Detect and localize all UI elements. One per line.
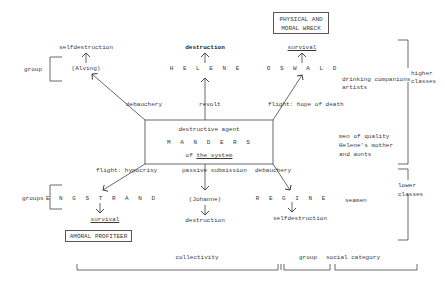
manders-label: M A N D E R S	[167, 139, 253, 146]
alving-outcome: selfdestruction	[59, 44, 113, 51]
lower-classes-line1: lower	[398, 182, 416, 189]
drinking-companions-line1: drinking companions	[342, 76, 410, 83]
edge-label-passive-submission: passive submission	[182, 167, 247, 174]
johanne-outcome: destruction	[185, 217, 225, 224]
wreck-line2: MORAL WRECK	[274, 25, 328, 32]
collectivity-label: collectivity	[175, 254, 218, 261]
lower-classes-bracket-bottom	[398, 194, 408, 240]
men-of-quality-line2: Helene's mother	[339, 142, 393, 149]
wreck-line1: PHYSICAL AND	[274, 16, 328, 23]
regine-label: R E G I N E	[256, 195, 329, 202]
amoral-profiteer-box: AMORAL PROFITEER	[65, 230, 132, 242]
higher-classes-line1: higher	[411, 70, 433, 77]
alving-label: (Alving)	[72, 65, 101, 72]
of-the-system-label: of the system	[186, 152, 233, 159]
engstrand-outcome: survival	[91, 216, 120, 223]
seamen-label: seamen	[345, 197, 367, 204]
group-label-bottom: group	[299, 254, 317, 261]
destructive-agent-label: destructive agent	[178, 126, 239, 133]
lower-classes-line2: classes	[398, 191, 423, 198]
groups-label-lower: groups	[22, 195, 44, 202]
helene-label: H E L E N E	[170, 65, 243, 72]
men-of-quality-line1: men of quality	[339, 133, 389, 140]
regine-outcome: selfdestruction	[273, 215, 327, 222]
edge-label-hope-of-death: flight: hope of death	[268, 101, 344, 108]
edge-label-debauchery-lower: debauchery	[255, 167, 291, 174]
edge-label-debauchery-upper: debauchery	[126, 101, 162, 108]
higher-classes-line2: classes	[411, 78, 436, 85]
edge-label-revolt: revolt	[199, 101, 221, 108]
group-bracket-bottom	[284, 264, 330, 270]
oswald-outcome: survival	[288, 44, 317, 51]
higher-classes-bracket-top	[398, 40, 408, 68]
social-category-bracket	[335, 264, 417, 270]
physical-moral-wreck-box: PHYSICAL AND MORAL WRECK	[273, 12, 329, 34]
collectivity-bracket	[77, 264, 278, 270]
group-label-upper: group	[24, 66, 42, 73]
drinking-companions-line2: artists	[342, 84, 367, 91]
johanne-label: (Johanne)	[189, 196, 221, 203]
men-of-quality-line3: and aunts	[339, 151, 371, 158]
edge-label-hypocrisy: flight: hypocrisy	[96, 167, 157, 174]
engstrand-label: E N G S T R A N D	[46, 195, 158, 202]
oswald-label: O S W A L D	[267, 65, 340, 72]
amoral-profiteer-label: AMORAL PROFITEER	[66, 233, 131, 240]
social-category-label: social category	[326, 254, 380, 261]
helene-outcome: destruction	[185, 44, 225, 51]
group-bracket-upper	[50, 57, 62, 81]
